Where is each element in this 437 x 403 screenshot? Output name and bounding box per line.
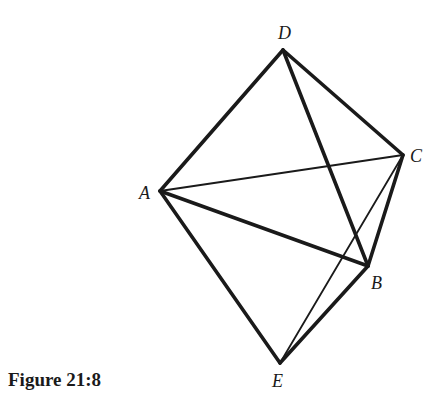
edge-db xyxy=(283,50,368,266)
diagram-edges xyxy=(160,50,403,363)
figure-caption: Figure 21:8 xyxy=(8,369,101,391)
edge-ae xyxy=(160,191,280,363)
vertex-label-d: D xyxy=(277,23,291,43)
edge-bc xyxy=(368,155,403,266)
vertex-label-c: C xyxy=(410,146,423,166)
edge-dc xyxy=(283,50,403,155)
vertex-label-a: A xyxy=(138,183,151,203)
edge-ac xyxy=(160,155,403,191)
vertex-label-b: B xyxy=(371,273,382,293)
vertex-label-e: E xyxy=(271,371,283,391)
edge-eb xyxy=(280,266,368,363)
polyhedron-diagram: A B C D E xyxy=(0,0,437,403)
edge-ec xyxy=(280,155,403,363)
edge-ab xyxy=(160,191,368,266)
edge-da xyxy=(160,50,283,191)
vertex-labels: A B C D E xyxy=(138,23,423,391)
